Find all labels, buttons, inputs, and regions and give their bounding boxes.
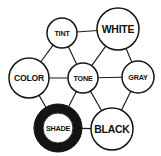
edge-tint-tone xyxy=(68,46,77,65)
node-gray-label: GRAY xyxy=(128,73,148,82)
node-shade[interactable]: SHADE xyxy=(34,104,82,152)
node-tint[interactable]: TINT xyxy=(47,18,77,48)
edge-tint-color xyxy=(41,45,54,63)
edge-color-shade xyxy=(39,95,46,108)
node-black-label: BLACK xyxy=(94,124,130,135)
node-white-label: WHITE xyxy=(102,24,135,35)
edge-gray-black xyxy=(121,91,131,111)
node-tone[interactable]: TONE xyxy=(68,63,98,93)
node-color[interactable]: COLOR xyxy=(9,58,49,98)
edge-tone-black xyxy=(90,91,102,112)
edge-white-gray xyxy=(126,48,132,63)
edge-tint-white xyxy=(76,30,97,32)
graph-svg: TINTWHITECOLORTONEGRAYSHADEBLACK xyxy=(0,0,161,156)
edge-tone-shade xyxy=(69,91,77,107)
node-tint-label: TINT xyxy=(54,29,70,38)
node-shade-label: SHADE xyxy=(46,124,71,133)
diagram-canvas: TINTWHITECOLORTONEGRAYSHADEBLACK xyxy=(0,0,161,156)
edge-white-tone xyxy=(91,46,106,67)
nodes-layer: TINTWHITECOLORTONEGRAYSHADEBLACK xyxy=(9,8,154,152)
node-black[interactable]: BLACK xyxy=(91,108,133,150)
node-color-label: COLOR xyxy=(14,73,45,83)
node-tone-label: TONE xyxy=(73,74,92,83)
node-gray[interactable]: GRAY xyxy=(122,61,154,93)
node-white[interactable]: WHITE xyxy=(97,8,139,50)
